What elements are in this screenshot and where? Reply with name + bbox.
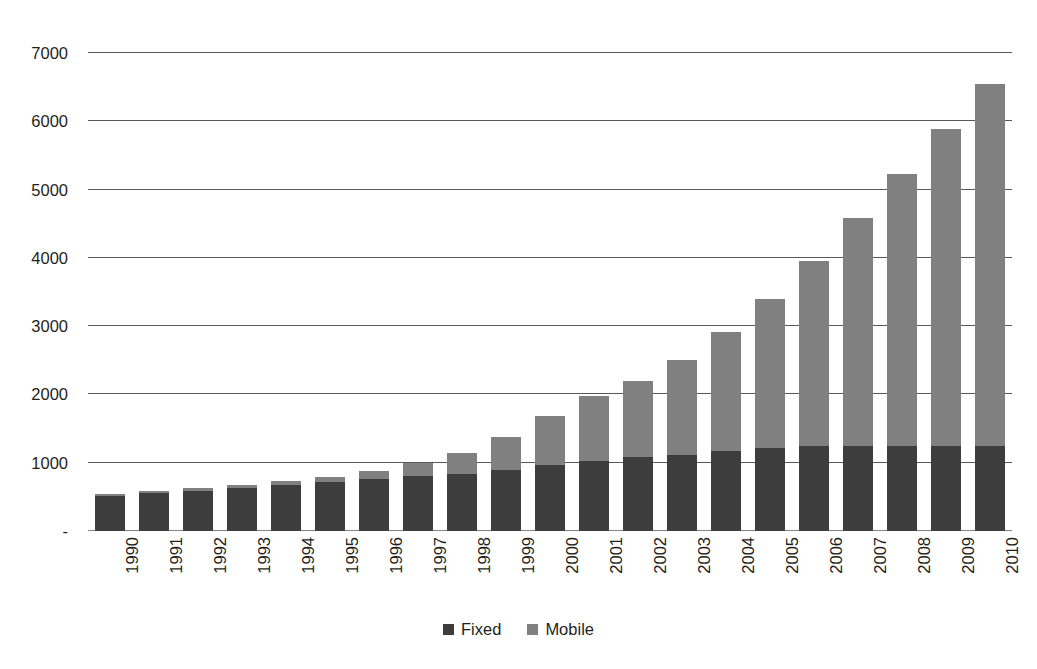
bar-group-1999[interactable] xyxy=(491,437,521,531)
bar-segment-fixed-2005[interactable] xyxy=(755,448,785,531)
x-tick-label-text: 2002 xyxy=(645,537,675,574)
bar-segment-fixed-2009[interactable] xyxy=(931,446,961,531)
bar-segment-mobile-2004[interactable] xyxy=(711,332,741,451)
x-tick-label-text: 1990 xyxy=(117,537,147,574)
x-tick-label-text: 2003 xyxy=(689,537,719,574)
bar-group-1998[interactable] xyxy=(447,453,477,531)
bar-group-2001[interactable] xyxy=(579,396,609,531)
square-marker-icon xyxy=(527,624,538,635)
bar-group-2000[interactable] xyxy=(535,416,565,531)
bar-segment-mobile-1995[interactable] xyxy=(315,477,345,482)
bar-segment-mobile-2010[interactable] xyxy=(975,84,1005,446)
y-tick-label-6000: 6000 xyxy=(31,112,68,131)
bar-segment-fixed-2010[interactable] xyxy=(975,446,1005,531)
bar-segment-mobile-2009[interactable] xyxy=(931,129,961,446)
y-tick-label-2000: 2000 xyxy=(31,385,68,404)
x-tick-label-text: 2006 xyxy=(821,537,851,574)
x-tick-label-text: 2005 xyxy=(777,537,807,574)
legend-item-label: Fixed xyxy=(461,620,501,639)
x-axis-labels: 1990199119921993199419951996199719981999… xyxy=(88,533,1012,613)
bar-segment-mobile-1999[interactable] xyxy=(491,437,521,469)
bar-group-1991[interactable] xyxy=(139,491,169,531)
stacked-bar-chart: -1000200030004000500060007000 1990199119… xyxy=(0,0,1037,669)
bar-segment-mobile-2008[interactable] xyxy=(887,174,917,446)
bar-segment-mobile-1992[interactable] xyxy=(183,488,213,490)
bar-segment-fixed-2007[interactable] xyxy=(843,446,873,531)
bar-segment-fixed-1995[interactable] xyxy=(315,482,345,531)
legend-item-fixed[interactable]: Fixed xyxy=(443,620,501,639)
chart-legend: FixedMobile xyxy=(0,620,1037,639)
bar-segment-fixed-1993[interactable] xyxy=(227,488,257,531)
bar-group-2004[interactable] xyxy=(711,332,741,531)
bar-segment-mobile-1998[interactable] xyxy=(447,453,477,473)
x-tick-label-text: 1992 xyxy=(205,537,235,574)
bar-segment-fixed-2000[interactable] xyxy=(535,465,565,531)
y-tick-label-1000: 1000 xyxy=(31,453,68,472)
bar-group-2008[interactable] xyxy=(887,174,917,531)
square-marker-icon xyxy=(443,624,454,635)
bar-segment-mobile-2005[interactable] xyxy=(755,299,785,449)
x-tick-label-text: 2010 xyxy=(997,537,1027,574)
bar-group-2007[interactable] xyxy=(843,218,873,531)
bar-segment-fixed-1994[interactable] xyxy=(271,485,301,531)
bar-group-2005[interactable] xyxy=(755,299,785,531)
x-tick-label-text: 2009 xyxy=(953,537,983,574)
bar-group-2006[interactable] xyxy=(799,261,829,531)
bar-segment-fixed-1996[interactable] xyxy=(359,479,389,531)
bar-segment-fixed-2006[interactable] xyxy=(799,446,829,531)
x-tick-label-text: 1994 xyxy=(293,537,323,574)
bar-segment-mobile-2001[interactable] xyxy=(579,396,609,461)
bar-group-1993[interactable] xyxy=(227,485,257,531)
bar-segment-mobile-2002[interactable] xyxy=(623,381,653,457)
bar-segment-mobile-1990[interactable] xyxy=(95,494,125,496)
bar-group-2003[interactable] xyxy=(667,360,697,531)
x-tick-label-text: 1991 xyxy=(161,537,191,574)
plot-area xyxy=(88,53,1012,531)
bar-segment-mobile-1996[interactable] xyxy=(359,471,389,479)
bar-segment-mobile-2007[interactable] xyxy=(843,218,873,445)
bar-segment-fixed-2008[interactable] xyxy=(887,446,917,531)
bar-group-2009[interactable] xyxy=(931,129,961,531)
bar-segment-mobile-2006[interactable] xyxy=(799,261,829,447)
x-tick-label-text: 1995 xyxy=(337,537,367,574)
x-tick-label-text: 1996 xyxy=(381,537,411,574)
bar-series-container xyxy=(88,53,1012,531)
x-tick-label-text: 2008 xyxy=(909,537,939,574)
y-axis-labels: -1000200030004000500060007000 xyxy=(0,0,78,669)
bar-segment-mobile-1994[interactable] xyxy=(271,481,301,484)
bar-segment-fixed-2001[interactable] xyxy=(579,461,609,531)
bar-segment-mobile-2000[interactable] xyxy=(535,416,565,466)
bar-segment-fixed-2003[interactable] xyxy=(667,455,697,531)
bar-segment-mobile-2003[interactable] xyxy=(667,360,697,455)
bar-group-2010[interactable] xyxy=(975,84,1005,531)
bar-group-1990[interactable] xyxy=(95,494,125,531)
bar-group-1996[interactable] xyxy=(359,471,389,531)
x-tick-label-text: 2007 xyxy=(865,537,895,574)
bar-segment-fixed-1990[interactable] xyxy=(95,496,125,532)
bar-segment-mobile-1993[interactable] xyxy=(227,485,257,488)
y-tick-label-5000: 5000 xyxy=(31,180,68,199)
y-tick-label-7000: 7000 xyxy=(31,44,68,63)
x-tick-label-text: 1997 xyxy=(425,537,455,574)
bar-segment-fixed-1999[interactable] xyxy=(491,470,521,531)
bar-segment-fixed-2002[interactable] xyxy=(623,457,653,531)
x-tick-label-text: 1999 xyxy=(513,537,543,574)
bar-group-1994[interactable] xyxy=(271,481,301,531)
bar-group-1995[interactable] xyxy=(315,477,345,531)
bar-group-1997[interactable] xyxy=(403,463,433,531)
bar-group-2002[interactable] xyxy=(623,381,653,531)
bar-segment-fixed-1998[interactable] xyxy=(447,474,477,531)
bar-segment-fixed-1997[interactable] xyxy=(403,476,433,531)
bar-group-1992[interactable] xyxy=(183,488,213,531)
y-tick-label-0: - xyxy=(63,522,69,541)
y-tick-label-3000: 3000 xyxy=(31,317,68,336)
bar-segment-fixed-1991[interactable] xyxy=(139,493,169,531)
bar-segment-fixed-1992[interactable] xyxy=(183,491,213,531)
bar-segment-mobile-1991[interactable] xyxy=(139,491,169,493)
x-tick-label-text: 2004 xyxy=(733,537,763,574)
bar-segment-mobile-1997[interactable] xyxy=(403,463,433,477)
y-tick-label-4000: 4000 xyxy=(31,248,68,267)
legend-item-mobile[interactable]: Mobile xyxy=(527,620,594,639)
bar-segment-fixed-2004[interactable] xyxy=(711,451,741,531)
x-tick-label-text: 2001 xyxy=(601,537,631,574)
